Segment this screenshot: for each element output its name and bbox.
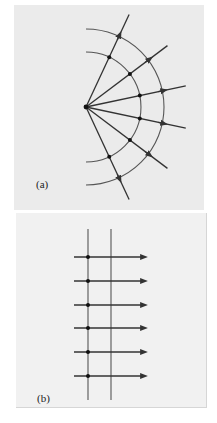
point-source [84, 105, 89, 110]
wavefront-point [128, 138, 132, 142]
plane-wave-group [74, 229, 144, 400]
wavefront-point [86, 350, 90, 354]
spherical-wave-group [84, 15, 186, 200]
wavefront-point [86, 303, 90, 307]
wavefront-point [86, 374, 90, 378]
ray [86, 15, 129, 107]
wavefront-point [128, 72, 132, 76]
wavefront-point [86, 326, 90, 330]
wave-diagram [0, 0, 217, 423]
wavefront-point [86, 279, 90, 283]
wavefront-point [86, 255, 90, 259]
ray [86, 107, 129, 199]
arrowhead-icon [158, 90, 164, 91]
panel-a-label: (a) [36, 178, 48, 190]
arrowhead-icon [158, 122, 164, 123]
wavefront-point [138, 116, 142, 120]
panel-b-label: (b) [37, 392, 50, 404]
wavefront-point [107, 155, 111, 159]
wavefront-point [107, 55, 111, 59]
spherical-wavefront [86, 29, 164, 185]
spherical-wavefront [86, 52, 141, 162]
wavefront-point [138, 94, 142, 98]
